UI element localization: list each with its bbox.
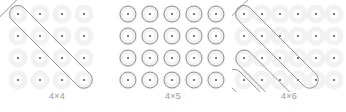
halo-layer-4x5: [118, 4, 226, 90]
kolam-4x5-drawing: [114, 0, 232, 92]
kolam-4x6-drawing: [232, 0, 346, 92]
figure-caption-4x5: 4×5: [114, 90, 232, 102]
figure-caption-4x6: 4×6: [232, 90, 346, 102]
kolam-pattern-4x6: 4×6: [232, 0, 346, 112]
kolam-4x4-drawing: [0, 0, 114, 92]
halo-layer-4x4: [8, 4, 94, 90]
kolam-figure-panel: 4×4: [0, 0, 346, 112]
figure-caption-4x4: 4×4: [0, 90, 114, 102]
kolam-pattern-4x4: 4×4: [0, 0, 114, 112]
kolam-pattern-4x5: 4×5: [114, 0, 232, 112]
dot-grid-4x4: [17, 13, 85, 81]
